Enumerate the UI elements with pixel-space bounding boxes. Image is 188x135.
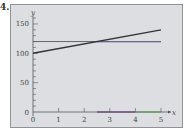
x-tick-label: 2 <box>82 116 86 124</box>
y-tick-label: 100 <box>16 50 29 58</box>
x-tick-label: 1 <box>56 116 60 124</box>
x-tick-label: 5 <box>159 116 163 124</box>
x-tick-label: 3 <box>108 116 112 124</box>
x-tick-label: 4 <box>133 116 138 124</box>
x-tick-label: 0 <box>31 116 35 124</box>
x-axis-label: x <box>172 109 176 117</box>
y-axis-label: y <box>30 9 36 17</box>
x-axis-arrow-icon <box>168 111 171 114</box>
y-tick-label: 150 <box>16 20 29 28</box>
y-tick-label: 50 <box>20 79 29 87</box>
y-tick-label: 0 <box>25 109 29 117</box>
line-chart: xy050100150012345 <box>0 0 188 135</box>
